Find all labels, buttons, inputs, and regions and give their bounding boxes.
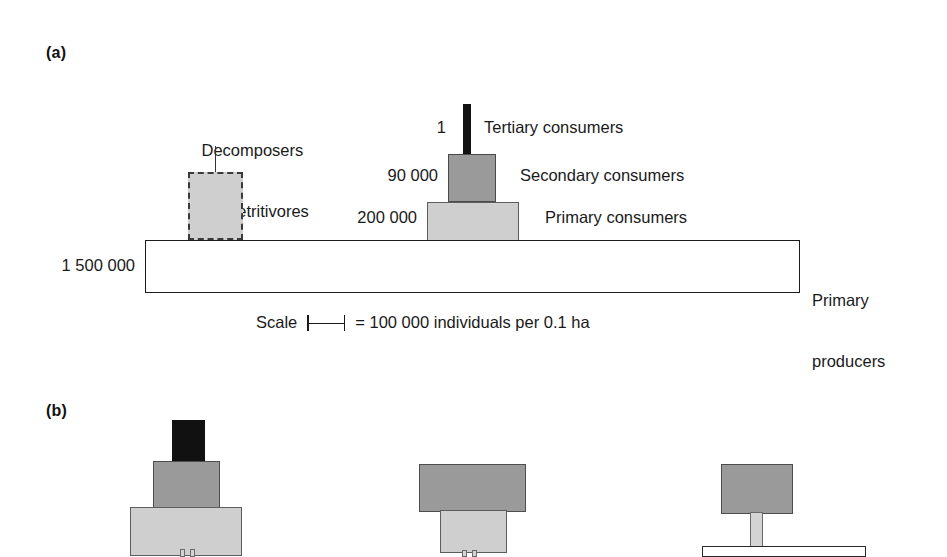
decomposers-box xyxy=(188,172,243,240)
primary-producers-name-line1: Primary xyxy=(812,290,885,310)
primary-producers-name: Primary producers xyxy=(812,250,885,411)
secondary-consumers-name: Secondary consumers xyxy=(520,165,684,185)
scale-word: Scale xyxy=(256,313,297,332)
primary-producers-name-line2: producers xyxy=(812,351,885,371)
secondary-consumers-value: 90 000 xyxy=(330,165,438,185)
pyramid3-secondary-block xyxy=(721,464,793,514)
primary-consumers-name: Primary consumers xyxy=(545,207,687,227)
scale-bar-rule xyxy=(307,323,345,325)
primary-consumers-bar xyxy=(427,202,519,242)
pyramid2-primary-block xyxy=(440,510,507,553)
scale-bar-glyph xyxy=(307,315,345,331)
secondary-consumers-bar xyxy=(448,154,496,202)
scale-bar-cap-right xyxy=(344,315,346,331)
primary-consumers-value: 200 000 xyxy=(300,207,417,227)
ecological-pyramid-figure: (a) Decomposers and detritivores 1 Terti… xyxy=(0,0,947,557)
tertiary-consumers-value: 1 xyxy=(410,117,446,137)
tertiary-consumers-bar xyxy=(463,104,471,154)
primary-producers-value: 1 500 000 xyxy=(10,255,135,275)
scale-equals-text: = 100 000 individuals per 0.1 ha xyxy=(355,313,589,332)
primary-producers-bar xyxy=(145,240,800,293)
pyramid3-producers-base xyxy=(702,546,866,557)
pyramid2-secondary-block xyxy=(419,464,526,512)
panel-b-label: (b) xyxy=(46,402,67,420)
pyramid2-producers-stem-left xyxy=(462,550,467,557)
pyramid1-primary-block xyxy=(130,507,242,556)
tertiary-consumers-name: Tertiary consumers xyxy=(484,117,623,137)
pyramid1-producers-stem-right xyxy=(190,549,195,557)
scale-row: Scale = 100 000 individuals per 0.1 ha xyxy=(256,313,590,332)
pyramid1-producers-stem-left xyxy=(180,549,185,557)
decomposers-label-line1: Decomposers xyxy=(196,140,309,160)
pyramid2-producers-stem-right xyxy=(472,550,477,557)
panel-a-label: (a) xyxy=(46,44,66,62)
